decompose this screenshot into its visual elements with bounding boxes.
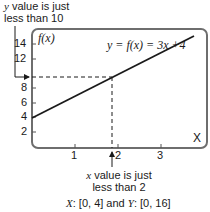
x-axis-label: X bbox=[193, 131, 201, 145]
x-tick-label-3: 3 bbox=[157, 150, 163, 161]
y-tick-label-4: 4 bbox=[21, 111, 27, 122]
x-annotation-line1: x value is just bbox=[86, 169, 152, 181]
y-annotation-line1: y value is just bbox=[4, 0, 69, 12]
y-annotation-line2: less than 10 bbox=[4, 12, 69, 24]
y-tick-label-12: 12 bbox=[14, 53, 26, 64]
y-tick-label-6: 6 bbox=[21, 97, 27, 108]
x-annotation-line2: less than 2 bbox=[86, 181, 152, 193]
y-axis-label: f(x) bbox=[38, 31, 55, 46]
y-tick-label-14: 14 bbox=[14, 38, 26, 49]
window-caption: X: [0, 4] and Y: [0, 16] bbox=[66, 197, 171, 209]
x-tick-label-1: 1 bbox=[71, 150, 77, 161]
y-annotation: y value is just less than 10 bbox=[4, 0, 69, 24]
y-tick-label-8: 8 bbox=[21, 82, 27, 93]
equation-label: y = f(x) = 3x +4 bbox=[107, 38, 186, 53]
x-tick-label-2: 2 bbox=[115, 150, 121, 161]
y-tick-label-2: 2 bbox=[21, 126, 27, 137]
x-annotation: x value is just less than 2 bbox=[86, 169, 152, 193]
